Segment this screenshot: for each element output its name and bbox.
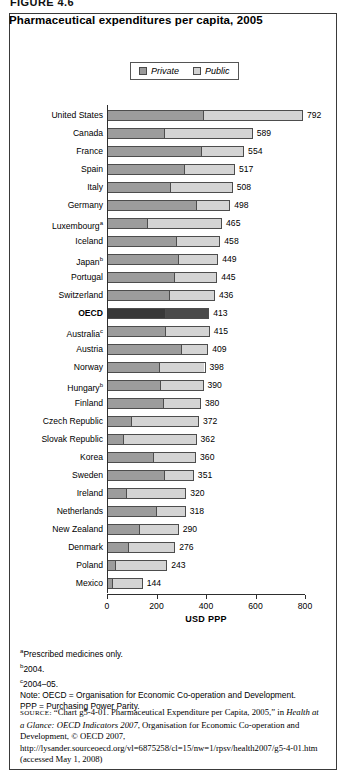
- x-axis-tick-label: 600: [248, 601, 262, 611]
- stacked-bar: [107, 200, 230, 211]
- footnote-c: c2004–05.: [20, 675, 320, 690]
- bar-value-label: 792: [307, 110, 321, 121]
- stacked-bar: [107, 146, 244, 157]
- x-axis-tick: [305, 595, 306, 599]
- bar-segment-public: [115, 561, 166, 570]
- bar-segment-public: [156, 507, 184, 516]
- bar-segment-public: [165, 309, 208, 318]
- x-axis-tick: [107, 595, 108, 599]
- category-label: Poland: [2, 560, 103, 571]
- bar-segment-private: [108, 435, 123, 444]
- bar-segment-public: [128, 543, 175, 552]
- bar-segment-public: [131, 417, 198, 426]
- stacked-bar: [107, 182, 233, 193]
- bar-segment-private: [108, 183, 170, 192]
- bar-segment-private: [108, 147, 201, 156]
- category-label: Finland: [2, 398, 103, 409]
- stacked-bar: [107, 560, 167, 571]
- bar-row: Germany498: [0, 200, 347, 211]
- bar-value-label: 498: [234, 200, 248, 211]
- bar-row: Denmark276: [0, 542, 347, 553]
- stacked-bar: [107, 218, 222, 229]
- bar-row: Japanb449: [0, 254, 347, 265]
- bar-segment-private: [108, 561, 115, 570]
- bar-value-label: 144: [147, 578, 161, 589]
- stacked-bar: [107, 398, 201, 409]
- stacked-bar: [107, 254, 218, 265]
- category-label: Sweden: [2, 470, 103, 481]
- source-part1: “Chart g5-4-01. Pharmaceutical Expenditu…: [52, 707, 287, 717]
- bar-value-label: 415: [214, 326, 228, 337]
- bar-segment-public: [164, 471, 193, 480]
- bar-segment-public: [170, 183, 231, 192]
- bar-value-label: 465: [226, 218, 240, 229]
- bar-segment-private: [108, 111, 203, 120]
- category-label: United States: [2, 110, 103, 121]
- bar-row: France554: [0, 146, 347, 157]
- bar-segment-private: [108, 219, 147, 228]
- bar-segment-public: [196, 201, 230, 210]
- bar-segment-private: [108, 381, 160, 390]
- stacked-bar: [107, 362, 206, 373]
- bar-segment-public: [174, 273, 217, 282]
- bar-row: Spain517: [0, 164, 347, 175]
- bar-value-label: 517: [239, 164, 253, 175]
- stacked-bar: [107, 326, 210, 337]
- bar-row: Slovak Republic362: [0, 434, 347, 445]
- category-label: France: [2, 146, 103, 157]
- category-footnote-marker: b: [100, 256, 103, 262]
- bar-value-label: 445: [221, 272, 235, 283]
- bar-value-label: 409: [212, 344, 226, 355]
- bar-row: Finland380: [0, 398, 347, 409]
- source-prefix: SOURCE:: [20, 709, 52, 717]
- stacked-bar: [107, 578, 143, 589]
- category-label: Slovak Republic: [2, 434, 103, 445]
- category-label: Portugal: [2, 272, 103, 283]
- bar-row: Netherlands318: [0, 506, 347, 517]
- bar-row: OECD413: [0, 308, 347, 319]
- bar-segment-public: [164, 129, 252, 138]
- bar-segment-private: [108, 327, 165, 336]
- bar-segment-private: [108, 291, 169, 300]
- bar-segment-public: [160, 381, 202, 390]
- category-footnote-marker: b: [100, 382, 103, 388]
- stacked-bar: [107, 542, 175, 553]
- category-label: Germany: [2, 200, 103, 211]
- footnote-a: aPrescribed medicines only.: [20, 645, 320, 660]
- bar-value-label: 351: [198, 470, 212, 481]
- bar-segment-private: [108, 255, 178, 264]
- stacked-bar: [107, 272, 217, 283]
- bar-segment-public: [181, 345, 207, 354]
- bar-value-label: 362: [201, 434, 215, 445]
- bar-value-label: 290: [183, 524, 197, 535]
- footnote-b: b2004.: [20, 660, 320, 675]
- category-label: Ireland: [2, 488, 103, 499]
- bar-segment-public: [159, 363, 205, 372]
- bar-row: United States792: [0, 110, 347, 121]
- x-axis-title: USD PPP: [185, 614, 227, 624]
- category-label: Austria: [2, 344, 103, 355]
- bar-segment-private: [108, 165, 184, 174]
- category-label: Denmark: [2, 542, 103, 553]
- figure-page: FIGURE 4.6 Pharmaceutical expenditures p…: [0, 0, 347, 780]
- x-axis-tick-label: 200: [149, 601, 163, 611]
- category-label: New Zealand: [2, 524, 103, 535]
- bar-row: Portugal445: [0, 272, 347, 283]
- bar-segment-public: [163, 399, 201, 408]
- bar-row: New Zealand290: [0, 524, 347, 535]
- stacked-bar: [107, 128, 253, 139]
- bar-value-label: 554: [248, 146, 262, 157]
- category-label: Japanb: [2, 254, 103, 268]
- bar-value-label: 413: [213, 308, 227, 319]
- stacked-bar: [107, 416, 199, 427]
- bar-row: Norway398: [0, 362, 347, 373]
- stacked-bar: [107, 344, 208, 355]
- stacked-bar: [107, 236, 220, 247]
- bar-segment-public: [139, 525, 177, 534]
- bar-segment-public: [165, 327, 209, 336]
- x-axis-tick: [256, 595, 257, 599]
- bar-row: Mexico144: [0, 578, 347, 589]
- source-citation: SOURCE: “Chart g5-4-01. Pharmaceutical E…: [20, 707, 320, 766]
- bar-row: Korea360: [0, 452, 347, 463]
- bar-segment-private: [108, 129, 164, 138]
